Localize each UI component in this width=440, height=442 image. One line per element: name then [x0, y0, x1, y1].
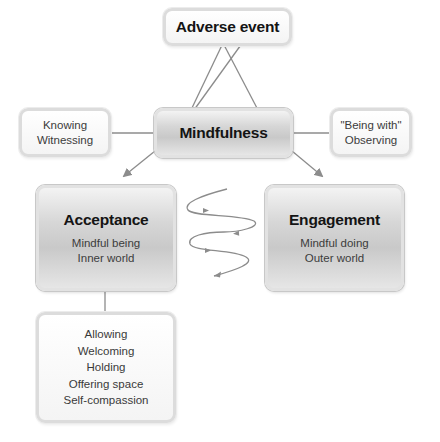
mindfulness-title: Mindfulness [179, 124, 267, 142]
knowing-witnessing-node: Knowing Witnessing [19, 108, 111, 157]
mindfulness-node: Mindfulness [154, 108, 293, 158]
detail-item: Allowing [85, 326, 128, 343]
acceptance-node: Acceptance Mindful being Inner world [36, 185, 176, 291]
adverse-event-title: Adverse event [176, 18, 279, 36]
engagement-node: Engagement Mindful doing Outer world [265, 185, 404, 291]
attribute-line: Observing [345, 133, 397, 148]
engagement-line: Outer world [305, 251, 364, 266]
acceptance-line: Mindful being [72, 236, 140, 251]
detail-item: Self-compassion [63, 392, 148, 409]
adverse-event-node: Adverse event [163, 8, 292, 46]
detail-item: Holding [87, 359, 126, 376]
acceptance-title: Acceptance [63, 211, 148, 229]
engagement-line: Mindful doing [300, 236, 368, 251]
detail-item: Offering space [69, 376, 144, 393]
being-with-observing-node: "Being with" Observing [330, 108, 412, 157]
detail-item: Welcoming [78, 343, 135, 360]
engagement-title: Engagement [289, 211, 380, 229]
attribute-line: "Being with" [340, 118, 401, 133]
acceptance-details-node: Allowing Welcoming Holding Offering spac… [36, 312, 176, 423]
attribute-line: Knowing [43, 118, 87, 133]
acceptance-line: Inner world [78, 251, 135, 266]
attribute-line: Witnessing [37, 133, 93, 148]
